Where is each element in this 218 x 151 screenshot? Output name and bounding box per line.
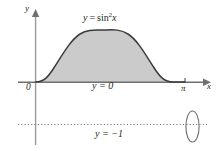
curve-label-variable-x: x	[112, 12, 116, 23]
curve-label-equals: =	[87, 12, 97, 23]
y-axis-arrowhead	[32, 9, 39, 17]
shaded-region-under-curve	[36, 30, 186, 82]
curve-equation-label: y = sin2x	[83, 13, 116, 23]
curve-label-function-sin: sin	[97, 12, 109, 23]
axis-of-revolution-equation-label: y = −1	[95, 129, 123, 139]
y-axis-label: y	[25, 4, 29, 13]
baseline-equation-label: y = 0	[92, 81, 113, 91]
origin-label: 0	[26, 83, 31, 93]
revolution-ellipse	[186, 111, 199, 142]
x-axis-label: x	[207, 82, 211, 91]
math-figure-region-of-revolution: y x 0 π y = sin2x y = 0 y = −1	[0, 0, 218, 151]
x-axis-tick-label-pi: π	[181, 84, 186, 93]
